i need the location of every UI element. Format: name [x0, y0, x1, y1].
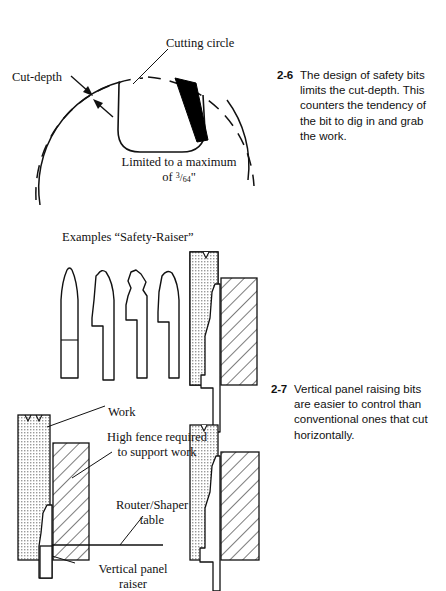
label-vertical-panel-raiser: Vertical panel raiser	[78, 562, 188, 591]
caption-fig-2-7: 2-7 Vertical panel raising bits are easi…	[271, 382, 441, 443]
caption-fig-2-6: 2-6 The design of safety bits limits the…	[277, 68, 437, 144]
work-leader	[47, 406, 105, 427]
fence-upper	[221, 278, 257, 385]
caption-number-2-7: 2-7	[271, 382, 287, 397]
bit-profile-4	[158, 272, 179, 378]
label-cutting-circle: Cutting circle	[166, 36, 234, 51]
bit-profile-2	[92, 271, 114, 380]
vertical-bit-upper	[201, 284, 220, 432]
vertical-setup-upper	[190, 252, 257, 432]
label-work: Work	[108, 405, 135, 420]
fraction-denominator: 64	[183, 175, 191, 184]
limited-of: of	[162, 170, 176, 184]
limited-line-1: Limited to a maximum	[122, 155, 237, 169]
caption-text-2-6: The design of safety bits limits the cut…	[300, 68, 437, 144]
high-fence-line-1: High fence required	[107, 430, 207, 444]
carbide-cutter	[175, 78, 208, 142]
bit-profile-1	[61, 268, 78, 378]
high-fence-line-2: to support work	[117, 445, 196, 459]
vertical-raiser-leader	[52, 556, 75, 563]
caption-text-2-7: Vertical panel raising bits are easier t…	[294, 382, 441, 443]
vertical-panel-raiser-bit	[39, 505, 52, 578]
bit-flute-profile	[118, 82, 205, 152]
vertical-raiser-line-1: Vertical panel	[98, 562, 167, 576]
fence-lower	[221, 452, 259, 560]
bit-profiles	[61, 268, 179, 380]
label-examples-safety-raiser: Examples “Safety-Raiser”	[62, 230, 194, 245]
limited-line-2: of 3/64"	[162, 170, 196, 184]
cutting-circle-leader	[133, 49, 168, 84]
fraction-3-64: 3/64	[176, 172, 191, 183]
router-line-2: table	[140, 513, 164, 527]
high-fence	[53, 443, 89, 560]
workpiece-panel-labelled	[18, 415, 50, 560]
fraction-numerator: 3	[176, 171, 180, 180]
router-line-1: Router/Shaper	[116, 498, 188, 512]
label-cut-depth: Cut-depth	[12, 70, 62, 85]
label-limited-maximum: Limited to a maximum of 3/64"	[104, 155, 254, 185]
label-router-shaper-table: Router/Shaper table	[92, 498, 212, 528]
inch-mark: "	[191, 170, 196, 184]
bit-profile-3	[126, 270, 147, 378]
bit-body-arc	[39, 82, 120, 205]
workpiece-panel-upper	[190, 252, 218, 385]
vertical-raiser-line-2: raiser	[119, 577, 147, 591]
figure-page: Cutting circle Cut-depth Limited to a ma…	[0, 0, 446, 591]
cut-depth-arrow-2	[93, 99, 113, 117]
label-high-fence: High fence required to support work	[72, 430, 242, 460]
caption-number-2-6: 2-6	[277, 68, 293, 83]
cut-depth-arrow-1	[71, 76, 93, 96]
